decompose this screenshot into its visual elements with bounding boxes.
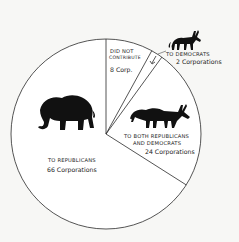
- did-not-contribute-label-line2: CONTRIBUTE: [109, 55, 141, 61]
- republicans-value: 66 Corporations: [47, 166, 97, 173]
- dem-leader-line: [158, 51, 166, 54]
- democrats-value: 2 Corporations: [176, 58, 222, 65]
- both-value: 24 Corporations: [145, 148, 195, 155]
- pie-chart: [0, 0, 239, 242]
- did-not-contribute-value: 8 Corp.: [110, 66, 132, 73]
- both-label-line2: AND DEMOCRATS: [133, 140, 181, 147]
- republicans-label: TO REPUBLICANS: [48, 157, 96, 164]
- democrats-label: TO DEMOCRATS: [166, 51, 210, 58]
- both-label-line1: TO BOTH REPUBLICANS: [124, 133, 189, 140]
- donkey-icon: [169, 30, 201, 50]
- did-not-contribute-label-line1: DID NOT: [110, 48, 134, 55]
